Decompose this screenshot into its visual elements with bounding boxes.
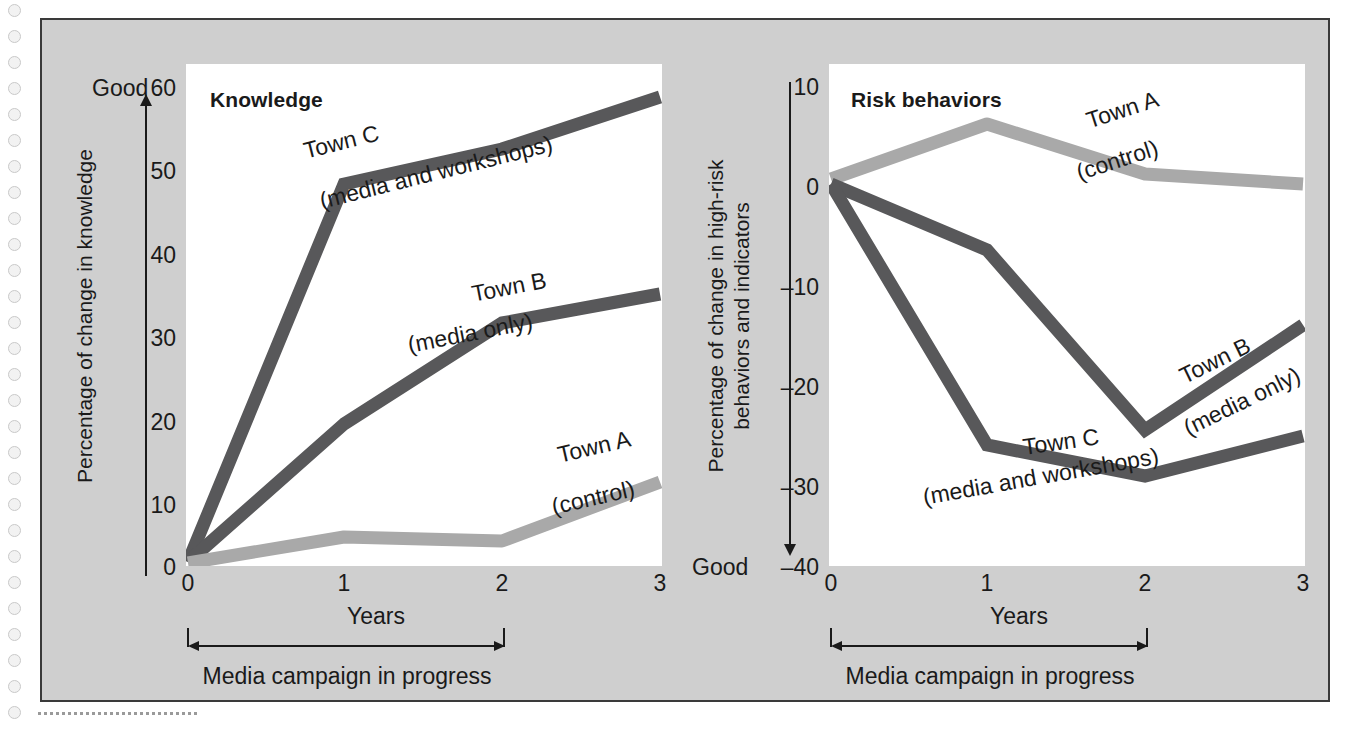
- plot-area-knowledge: Knowledge Town C (media and workshops) T…: [186, 64, 662, 566]
- series-line-town-a: [831, 124, 1303, 184]
- y-axis-title-knowledge: Percentage of change in knowledge: [72, 66, 97, 566]
- x-tick-1: 1: [967, 572, 1007, 595]
- x-tick-3: 3: [1283, 572, 1323, 595]
- y-tick-60: 60: [130, 77, 176, 100]
- y-tick-30: 30: [130, 327, 176, 350]
- y-tick-m30: –30: [765, 476, 819, 499]
- x-axis-title-risk: Years: [990, 605, 1048, 628]
- page-footer-rule: [38, 712, 198, 715]
- x-tick-1: 1: [324, 572, 364, 595]
- x-tick-3: 3: [640, 572, 680, 595]
- campaign-arrow-right-icon: [1137, 641, 1148, 651]
- chart-knowledge: Percentage of change in knowledge Good 6…: [42, 20, 687, 704]
- risk-series-svg: [829, 64, 1305, 566]
- y-tick-m10: –10: [765, 276, 819, 299]
- campaign-arrow-left-icon: [831, 641, 842, 651]
- good-label-risk: Good: [692, 556, 748, 579]
- plot-title-knowledge: Knowledge: [210, 88, 323, 112]
- campaign-span-line: [194, 645, 498, 647]
- y-tick-40: 40: [130, 244, 176, 267]
- campaign-arrow-left-icon: [188, 641, 199, 651]
- y-tick-0: 0: [765, 176, 819, 199]
- y-tick-50: 50: [130, 160, 176, 183]
- campaign-span-line: [837, 645, 1141, 647]
- figure-panel: Percentage of change in knowledge Good 6…: [40, 18, 1330, 702]
- plot-title-risk-behaviors: Risk behaviors: [851, 88, 1002, 112]
- y-axis-title-risk-line1: Percentage of change in high-risk: [703, 66, 728, 566]
- campaign-label-risk: Media campaign in progress: [795, 665, 1185, 688]
- page-margin-dots: [6, 4, 28, 730]
- chart-risk-behaviors: Percentage of change in high-risk behavi…: [687, 20, 1332, 704]
- campaign-arrow-right-icon: [494, 641, 505, 651]
- x-tick-2: 2: [1125, 572, 1165, 595]
- x-tick-2: 2: [482, 572, 522, 595]
- plot-area-risk-behaviors: Risk behaviors Town A (control) Town B (…: [829, 64, 1305, 566]
- y-tick-20: 20: [130, 411, 176, 434]
- x-axis-title-knowledge: Years: [347, 605, 405, 628]
- campaign-label-knowledge: Media campaign in progress: [152, 665, 542, 688]
- y-tick-10: 10: [130, 494, 176, 517]
- x-tick-0: 0: [168, 572, 208, 595]
- y-tick-10: 10: [765, 76, 819, 99]
- y-axis-title-risk-line2: behaviors and indicators: [729, 66, 754, 566]
- y-tick-m20: –20: [765, 376, 819, 399]
- x-tick-0: 0: [811, 572, 851, 595]
